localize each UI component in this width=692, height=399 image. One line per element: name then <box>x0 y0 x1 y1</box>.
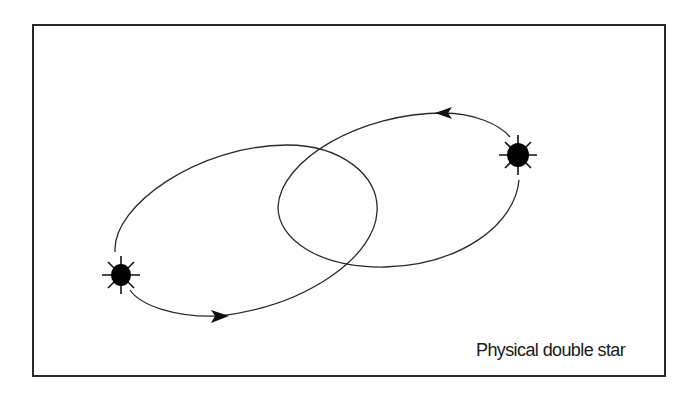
figure-caption: Physical double star <box>476 340 625 361</box>
orbit-a <box>115 145 377 316</box>
star-icon <box>102 256 140 294</box>
star-icon <box>499 135 537 175</box>
orbit-b <box>278 113 519 267</box>
